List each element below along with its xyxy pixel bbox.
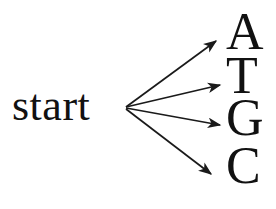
base-node-c-label: C (226, 140, 261, 192)
arrow-start-to-g (126, 108, 220, 125)
arrow-start-to-c (126, 109, 211, 174)
start-node-label: start (12, 84, 90, 128)
diagram-canvas: start A T G C (0, 0, 276, 209)
